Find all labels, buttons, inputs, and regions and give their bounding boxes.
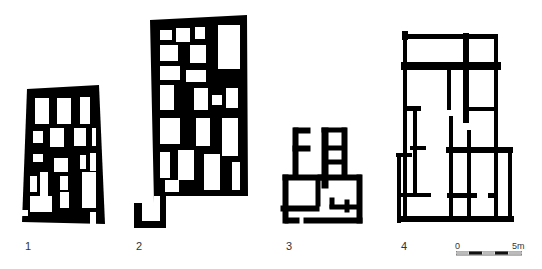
plan-3-label: 3: [286, 240, 292, 252]
plan-4: [396, 31, 514, 223]
plan-2-label: 2: [136, 240, 142, 252]
plan-2: [134, 15, 248, 228]
scale-end-label: 5m: [512, 241, 525, 251]
plan-1: [22, 85, 105, 224]
plan-3: [281, 128, 362, 223]
scale-bar-graphic: [456, 251, 522, 256]
scale-start-label: 0: [455, 241, 460, 251]
plan-4-label: 4: [401, 240, 407, 252]
plan-1-label: 1: [25, 240, 31, 252]
floor-plans-diagram: [0, 0, 542, 269]
